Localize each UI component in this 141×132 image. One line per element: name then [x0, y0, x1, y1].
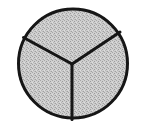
drawing-group — [19, 9, 128, 120]
sector-circle-diagram — [0, 0, 141, 132]
figure-canvas: Circle divided into three sectors top se… — [0, 0, 141, 132]
